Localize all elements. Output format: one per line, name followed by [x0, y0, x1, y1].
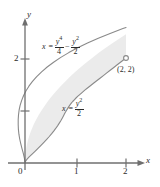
upper-eq-term1-denominator: 4 — [56, 48, 62, 57]
lower-eq-relation: = — [69, 105, 74, 113]
y-tick-label-2: 2 — [14, 54, 19, 63]
upper-eq-relation: = — [49, 43, 54, 51]
intersection-point-label: (2, 2) — [117, 66, 134, 74]
upper-eq-term1-exponent: 4 — [59, 35, 62, 41]
upper-eq-term2: y2 2 — [71, 38, 80, 56]
upper-eq-term1: y4 4 — [55, 38, 64, 56]
upper-curve-equation: x = y4 4 − y2 2 — [42, 38, 80, 56]
x-tick-label-2: 2 — [123, 167, 128, 176]
lower-eq-term1-denominator: 2 — [76, 110, 82, 119]
y-axis-label: y — [27, 10, 31, 19]
upper-eq-lhs: x — [42, 43, 46, 51]
intersection-point-marker — [124, 56, 129, 61]
lower-curve-equation: x = y2 2 — [62, 100, 84, 118]
upper-eq-operator: − — [65, 43, 70, 51]
upper-eq-term2-denominator: 2 — [73, 48, 79, 57]
lower-eq-lhs: x — [62, 105, 66, 113]
upper-eq-term2-exponent: 2 — [76, 35, 79, 41]
plot-canvas — [0, 0, 160, 187]
x-axis-arrowhead — [138, 160, 146, 166]
y-axis-arrowhead — [22, 18, 28, 26]
lower-eq-term1-numerator: y2 — [75, 100, 84, 109]
lower-eq-term1: y2 2 — [75, 100, 84, 118]
x-axis-label: x — [146, 156, 150, 165]
x-tick-label-1: 1 — [74, 167, 79, 176]
origin-label: 0 — [18, 167, 23, 176]
figure-region-between-curves: y x 2 0 1 2 (2, 2) x = y4 4 − y2 2 x = y… — [0, 0, 160, 187]
upper-eq-term2-numerator: y2 — [71, 38, 80, 47]
upper-eq-term1-numerator: y4 — [55, 38, 64, 47]
lower-eq-term1-exponent: 2 — [79, 97, 82, 103]
